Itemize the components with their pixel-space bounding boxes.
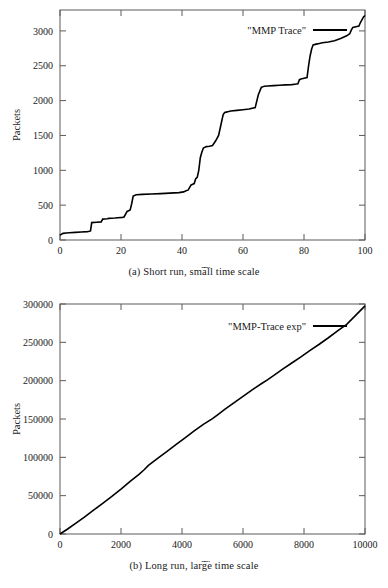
y-axis-tick-label: 250000 [23, 337, 53, 348]
x-axis-tick-label: 6000 [233, 539, 253, 550]
data-series-line [60, 16, 365, 236]
y-axis-tick-label: 1000 [33, 165, 53, 176]
figure-panel-b: 0500001000001500002000002500003000000200… [0, 294, 388, 588]
y-axis-tick-label: 150000 [23, 414, 53, 425]
legend-label: "MMP Trace" [247, 25, 306, 36]
y-axis-tick-label: 100000 [23, 452, 53, 463]
y-axis-tick-label: 200000 [23, 375, 53, 386]
x-axis-title: Time [202, 559, 224, 562]
y-axis-tick-label: 50000 [28, 490, 53, 501]
data-series-line [60, 306, 365, 534]
x-axis-tick-label: 20 [116, 245, 126, 256]
x-axis-tick-label: 10000 [353, 539, 378, 550]
y-axis-tick-label: 300000 [23, 299, 53, 310]
y-axis-tick-label: 2000 [33, 95, 53, 106]
y-axis-tick-label: 0 [48, 235, 53, 246]
legend-label: "MMP-Trace exp" [228, 321, 306, 332]
x-axis-tick-label: 0 [58, 539, 63, 550]
y-axis-title: Packets [11, 403, 22, 435]
x-axis-tick-label: 40 [177, 245, 187, 256]
chart-b-canvas: 0500001000001500002000002500003000000200… [0, 294, 388, 562]
y-axis-tick-label: 0 [48, 529, 53, 540]
x-axis-tick-label: 80 [299, 245, 309, 256]
chart-a-plot-area: 050010001500200025003000020406080100Time… [0, 0, 388, 268]
y-axis-tick-label: 3000 [33, 26, 53, 37]
x-axis-tick-label: 8000 [294, 539, 314, 550]
y-axis-title: Packets [11, 109, 22, 141]
x-axis-tick-label: 2000 [111, 539, 131, 550]
y-axis-tick-label: 500 [38, 200, 53, 211]
y-axis-tick-label: 1500 [33, 130, 53, 141]
x-axis-tick-label: 0 [58, 245, 63, 256]
y-axis-tick-label: 2500 [33, 60, 53, 71]
chart-b-plot-area: 0500001000001500002000002500003000000200… [0, 294, 388, 562]
x-axis-tick-label: 60 [238, 245, 248, 256]
figure-panel-a: 050010001500200025003000020406080100Time… [0, 0, 388, 294]
chart-a-canvas: 050010001500200025003000020406080100Time… [0, 0, 388, 268]
plot-frame [60, 10, 365, 240]
x-axis-tick-label: 100 [358, 245, 373, 256]
x-axis-tick-label: 4000 [172, 539, 192, 550]
x-axis-title: Time [202, 265, 224, 268]
